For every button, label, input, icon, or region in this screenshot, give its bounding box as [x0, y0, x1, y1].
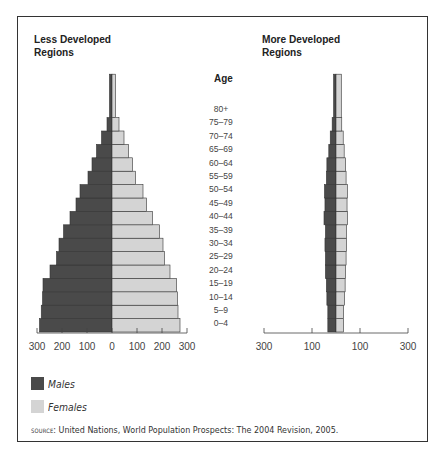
male-bar [92, 158, 112, 171]
legend-females-swatch [31, 400, 44, 413]
legend-males-label: Males [48, 378, 75, 390]
female-bar [336, 158, 346, 171]
female-bar [112, 278, 177, 291]
male-bar [76, 198, 112, 211]
male-bar [102, 131, 113, 144]
male-bar [107, 118, 112, 131]
female-bar [112, 118, 119, 131]
source-prefix: source [31, 425, 53, 435]
male-bar [327, 292, 336, 305]
male-bar [325, 225, 336, 238]
female-bar [336, 118, 342, 131]
male-bar [334, 74, 336, 117]
female-bar [112, 144, 129, 157]
female-bar [336, 252, 346, 265]
male-bar [50, 265, 112, 278]
male-bar [43, 292, 113, 305]
male-bar [88, 171, 112, 184]
female-bar [112, 305, 178, 318]
female-bar [336, 225, 347, 238]
x-tick-label: 300 [256, 341, 273, 352]
female-bar [112, 171, 136, 184]
female-bar [112, 225, 160, 238]
male-bar [326, 278, 336, 291]
x-tick-label: 200 [154, 341, 171, 352]
female-bar [336, 265, 346, 278]
x-tick-label: 0 [109, 341, 115, 352]
female-bar [336, 292, 345, 305]
female-bar [336, 74, 341, 117]
female-bar [112, 211, 153, 224]
male-bar [327, 158, 336, 171]
female-bar [112, 292, 178, 305]
x-tick-label: 100 [79, 341, 96, 352]
x-tick-label: 300 [179, 341, 196, 352]
legend-males-swatch [31, 377, 44, 390]
female-bar [112, 185, 143, 198]
female-bar [112, 74, 116, 117]
x-tick-label: 100 [352, 341, 369, 352]
female-bar [336, 319, 344, 332]
male-bar [325, 265, 336, 278]
male-bar [41, 305, 112, 318]
female-bar [336, 131, 343, 144]
x-tick-label: 300 [29, 341, 46, 352]
x-tick-label: 300 [400, 341, 417, 352]
female-bar [112, 238, 163, 251]
male-bar [97, 144, 113, 157]
female-bar [336, 171, 346, 184]
male-bar [329, 144, 336, 157]
x-tick-label: 200 [54, 341, 71, 352]
male-bar [325, 252, 336, 265]
male-bar [64, 225, 113, 238]
male-bar [40, 319, 113, 332]
male-bar [110, 74, 113, 117]
male-bar [326, 171, 336, 184]
male-bar [325, 198, 336, 211]
female-bar [112, 252, 165, 265]
male-bar [332, 118, 336, 131]
source-text: : United Nations, World Population Prosp… [53, 424, 338, 435]
male-bar [59, 238, 112, 251]
legend-females-label: Females [48, 401, 87, 413]
source-note: source: United Nations, World Population… [31, 424, 338, 435]
x-tick-label: 100 [304, 341, 321, 352]
female-bar [336, 238, 347, 251]
female-bar [112, 131, 124, 144]
male-bar [328, 305, 336, 318]
male-bar [324, 185, 336, 198]
male-bar [325, 238, 336, 251]
female-bar [336, 185, 348, 198]
female-bar [112, 319, 180, 332]
male-bar [330, 131, 336, 144]
male-bar [324, 211, 336, 224]
male-bar [43, 278, 112, 291]
female-bar [112, 158, 133, 171]
female-bar [112, 198, 147, 211]
female-bar [336, 198, 347, 211]
x-tick-label: 100 [129, 341, 146, 352]
population-pyramids: 3002001000100200300300100100300 [0, 0, 438, 459]
female-bar [336, 278, 345, 291]
female-bar [336, 211, 348, 224]
female-bar [336, 305, 344, 318]
male-bar [80, 185, 112, 198]
female-bar [336, 144, 344, 157]
female-bar [112, 265, 170, 278]
male-bar [70, 211, 112, 224]
male-bar [328, 319, 336, 332]
male-bar [57, 252, 113, 265]
